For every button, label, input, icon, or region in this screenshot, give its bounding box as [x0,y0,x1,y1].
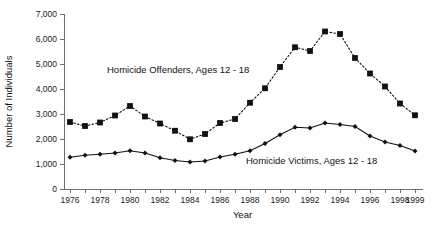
x-tick-label-1988: 1988 [241,195,260,205]
x-tick-label-1984: 1984 [181,195,200,205]
x-tick-label-1992: 1992 [301,195,320,205]
data-point-offenders-1998 [397,101,403,107]
data-point-offenders-1997 [382,84,388,90]
data-point-offenders-1991 [292,44,298,50]
data-point-offenders-1984 [187,136,193,142]
y-tick-label-6000: 6,000 [36,34,58,44]
y-tick-label-1000: 1,000 [36,159,58,169]
data-point-victims-1990 [278,132,283,137]
data-point-victims-1998 [398,143,403,148]
data-point-victims-1986 [218,155,223,160]
data-point-victims-1994 [338,122,343,127]
data-point-offenders-1979 [112,113,118,119]
data-point-victims-1976 [68,155,73,160]
data-point-victims-1984 [188,160,193,165]
data-point-offenders-1985 [202,131,208,137]
data-point-victims-1992 [308,126,313,131]
data-point-victims-1993 [323,121,328,126]
data-point-offenders-1990 [277,64,283,70]
x-tick-label-1978: 1978 [91,195,110,205]
y-axis-title: Number of Individuals [3,55,14,147]
data-point-offenders-1976 [67,119,73,125]
x-tick-label-1986: 1986 [211,195,230,205]
y-tick-label-2000: 2,000 [36,134,58,144]
data-point-offenders-1980 [127,103,133,109]
y-tick-label-3000: 3,000 [36,109,58,119]
series-line-0 [70,32,415,140]
x-tick-label-1996: 1996 [361,195,380,205]
series-annotation-1: Homicide Victims, Ages 12 - 18 [246,155,377,166]
line-chart-plot: 01,0002,0003,0004,0005,0006,0007,0001976… [0,0,437,231]
x-tick-label-1976: 1976 [61,195,80,205]
data-point-offenders-1993 [322,29,328,35]
data-point-offenders-1999 [412,112,418,118]
data-point-victims-1997 [383,140,388,145]
data-point-victims-1989 [263,141,268,146]
x-tick-label-1990: 1990 [271,195,290,205]
data-point-victims-1999 [413,149,418,154]
data-point-offenders-1977 [82,123,88,129]
data-point-victims-1977 [83,153,88,158]
chart-figure: 01,0002,0003,0004,0005,0006,0007,0001976… [0,0,437,231]
data-point-victims-1979 [113,151,118,156]
series-annotation-0: Homicide Offenders, Ages 12 - 18 [107,64,249,75]
data-point-victims-1987 [233,152,238,157]
data-point-victims-1978 [98,152,103,157]
x-tick-label-1999: 1999 [406,195,425,205]
data-point-offenders-1982 [157,121,163,127]
data-point-offenders-1989 [262,85,268,91]
data-point-offenders-1987 [232,116,238,122]
data-point-offenders-1988 [247,100,253,106]
y-tick-label-4000: 4,000 [36,84,58,94]
data-point-offenders-1995 [352,55,358,61]
data-point-offenders-1992 [307,48,313,54]
x-tick-label-1982: 1982 [151,195,170,205]
data-point-victims-1988 [248,148,253,153]
data-point-victims-1985 [203,159,208,164]
data-point-offenders-1986 [217,120,223,126]
x-axis-title: Year [233,209,252,220]
data-point-victims-1991 [293,125,298,130]
data-point-victims-1981 [143,151,148,156]
x-tick-label-1994: 1994 [331,195,350,205]
data-point-offenders-1981 [142,114,148,120]
data-point-victims-1980 [128,148,133,153]
data-point-offenders-1994 [337,31,343,37]
data-point-offenders-1996 [367,71,373,77]
x-tick-label-1980: 1980 [121,195,140,205]
y-tick-label-5000: 5,000 [36,59,58,69]
data-point-victims-1982 [158,155,163,160]
data-point-offenders-1983 [172,128,178,134]
data-point-offenders-1978 [97,120,103,126]
y-tick-label-0: 0 [52,184,57,194]
y-tick-label-7000: 7,000 [36,9,58,19]
data-point-victims-1983 [173,158,178,163]
